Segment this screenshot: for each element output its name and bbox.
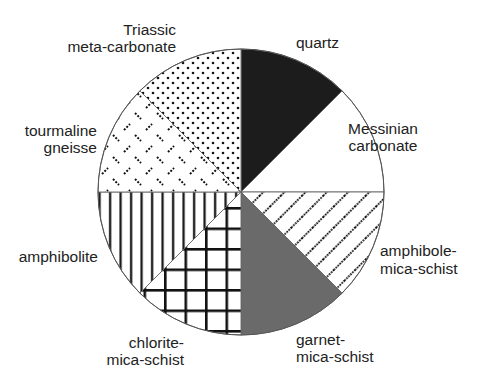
label-amphibole-mica-schist: amphibole- mica-schist	[380, 242, 458, 277]
label-amphibole-line1: amphibole-	[380, 242, 457, 259]
label-messinian-line2: carbonate	[349, 137, 418, 154]
label-garnet-mica-schist: garnet- mica-schist	[296, 331, 374, 365]
label-quartz-line1: quartz	[296, 34, 339, 51]
label-messinian-carbonate: Messinian carbonate	[348, 120, 418, 154]
pie-slices	[98, 49, 384, 335]
label-tourmaline-line1: tourmaline	[25, 122, 97, 139]
label-triassic-meta-carbonate: Triassic meta-carbonate	[67, 21, 176, 55]
pie-chart: quartz Messinian carbonate amphibole- mi…	[0, 0, 484, 382]
label-garnet-line1: garnet-	[296, 331, 345, 348]
label-garnet-line2: mica-schist	[296, 348, 374, 365]
label-messinian-line1: Messinian	[348, 120, 418, 137]
label-tourmaline-gneisse: tourmaline gneisse	[25, 122, 97, 156]
label-chlorite-line2: mica-schist	[106, 351, 184, 368]
label-tourmaline-line2: gneisse	[44, 139, 97, 156]
label-chlorite-mica-schist: chlorite- mica-schist	[106, 334, 184, 368]
label-amphibolite-line1: amphibolite	[19, 248, 98, 265]
label-quartz: quartz	[296, 34, 339, 51]
label-chlorite-line1: chlorite-	[129, 334, 184, 351]
label-triassic-line2: meta-carbonate	[67, 38, 176, 55]
label-triassic-line1: Triassic	[123, 21, 176, 38]
label-amphibolite: amphibolite	[19, 248, 98, 265]
label-amphibole-line2: mica-schist	[380, 260, 458, 277]
